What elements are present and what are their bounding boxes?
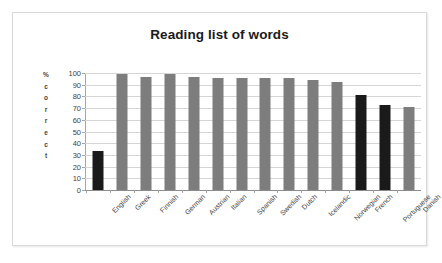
plot-area: 0102030405060708090100	[85, 73, 421, 190]
y-tick-label: 70	[73, 104, 81, 113]
x-tick-label: English	[111, 193, 132, 214]
y-tick-mark	[82, 190, 85, 191]
x-tick-label: Greek	[133, 193, 151, 211]
bar-slot	[301, 73, 325, 190]
y-tick-mark	[82, 108, 85, 109]
y-tick-label: 50	[73, 127, 81, 136]
y-axis-title-letter: c	[40, 139, 52, 151]
y-tick-mark	[82, 73, 85, 74]
bar	[188, 77, 199, 190]
bar-slot	[110, 73, 134, 190]
bar-series	[86, 73, 421, 190]
x-tick-label: Spanish	[255, 193, 278, 216]
bar	[380, 105, 391, 190]
y-tick-label: 90	[73, 80, 81, 89]
y-tick-mark	[82, 132, 85, 133]
y-axis-title-letter: o	[40, 92, 52, 104]
y-tick-mark	[82, 155, 85, 156]
x-tick-label: German	[183, 193, 206, 216]
bar-slot	[86, 73, 110, 190]
y-tick-label: 40	[73, 139, 81, 148]
bar-slot	[206, 73, 230, 190]
chart-title: Reading list of words	[13, 27, 426, 42]
chart-frame: Reading list of words %correct 010203040…	[12, 12, 427, 246]
y-tick-label: 60	[73, 115, 81, 124]
y-axis-title-letter: %	[40, 69, 52, 81]
y-tick-mark	[82, 85, 85, 86]
bar-slot	[373, 73, 397, 190]
bar	[308, 80, 319, 190]
bar-slot	[182, 73, 206, 190]
bar	[332, 82, 343, 190]
bar	[284, 78, 295, 190]
y-tick-mark	[82, 178, 85, 179]
bar-slot	[397, 73, 421, 190]
bar	[92, 151, 103, 190]
x-tick-label: Finnish	[158, 193, 179, 214]
x-tick-label: Austrian	[207, 193, 230, 216]
bar	[116, 74, 127, 190]
bar	[212, 78, 223, 190]
y-tick-label: 30	[73, 150, 81, 159]
x-tick-labels: EnglishGreekFinnishGermanAustrianItalian…	[85, 193, 421, 249]
y-tick-label: 10	[73, 174, 81, 183]
bar-slot	[325, 73, 349, 190]
bar	[140, 77, 151, 190]
y-tick-mark	[82, 120, 85, 121]
bar	[236, 78, 247, 190]
bar-slot	[254, 73, 278, 190]
bar	[404, 107, 415, 190]
y-axis-title-letter: e	[40, 127, 52, 139]
x-tick-label: Swedish	[279, 193, 303, 217]
bar-slot	[277, 73, 301, 190]
y-tick-label: 100	[68, 69, 81, 78]
bar	[260, 78, 271, 190]
y-tick-label: 0	[77, 186, 81, 195]
bar	[164, 74, 175, 190]
bar	[356, 95, 367, 190]
y-axis-title-letter: c	[40, 81, 52, 93]
y-tick-mark	[82, 96, 85, 97]
bar-slot	[230, 73, 254, 190]
x-tick-label: Icelandic	[327, 193, 351, 217]
y-tick-mark	[82, 143, 85, 144]
bar-slot	[158, 73, 182, 190]
y-axis-title: %correct	[40, 69, 52, 162]
y-axis-title-letter: r	[40, 104, 52, 116]
y-axis-title-letter: t	[40, 150, 52, 162]
y-tick-label: 20	[73, 162, 81, 171]
y-axis-title-letter: r	[40, 115, 52, 127]
bar-slot	[134, 73, 158, 190]
y-tick-label: 80	[73, 92, 81, 101]
bar-slot	[349, 73, 373, 190]
y-tick-mark	[82, 167, 85, 168]
x-tick-label: Dutch	[301, 193, 319, 211]
x-tick-label: Italian	[229, 193, 247, 211]
